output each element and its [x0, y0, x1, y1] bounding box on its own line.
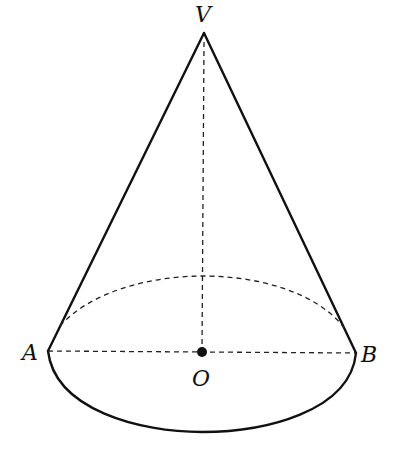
edge-va — [48, 33, 204, 351]
label-b: B — [360, 342, 377, 367]
base-back-arc — [60, 276, 346, 330]
base-front-arc — [48, 351, 356, 432]
label-a: A — [20, 340, 38, 365]
edge-vb — [204, 33, 356, 353]
center-point-o — [197, 347, 207, 357]
label-o: O — [192, 366, 210, 391]
height-vo — [202, 42, 204, 352]
cone-diagram: V A B O — [0, 0, 399, 464]
label-v: V — [195, 2, 213, 27]
